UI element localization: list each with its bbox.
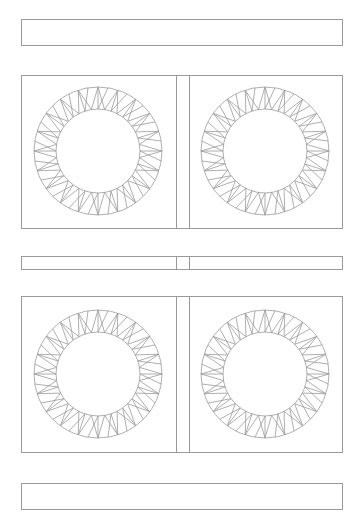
compass-ring-3 [201,310,329,438]
compass-ring-2 [34,310,162,438]
compass-ring-1 [201,87,329,215]
compass-ring-0 [34,87,162,215]
compass-rings [0,0,361,529]
